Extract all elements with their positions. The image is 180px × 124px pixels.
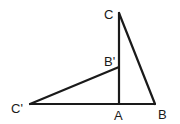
segment-c-prime-b-prime: [30, 67, 119, 104]
label-c: C: [104, 7, 113, 22]
label-c-prime: C': [11, 101, 23, 116]
geometry-diagram: C B' C' A B: [0, 0, 180, 124]
label-b: B: [158, 107, 167, 122]
label-a: A: [114, 108, 123, 123]
label-b-prime: B': [104, 54, 115, 69]
segment-c-b: [119, 13, 155, 104]
